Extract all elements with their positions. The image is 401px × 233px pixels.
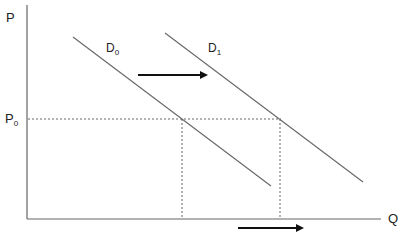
d1-label: D1 [208,42,221,54]
p0-label: P0 [5,112,18,125]
d0-label: D0 [106,42,119,54]
demand-curve-d0 [73,37,271,186]
d0-label-subscript: 0 [115,48,119,57]
p0-label-subscript: 0 [14,119,18,128]
d0-label-main: D [106,41,115,55]
x-axis-label: Q [388,212,398,225]
p0-label-main: P [5,111,14,126]
demand-shift-diagram [0,0,401,233]
y-axis-label: P [6,11,15,24]
demand-curve-d1 [165,33,363,182]
d1-label-subscript: 1 [217,48,221,57]
d1-label-main: D [208,41,217,55]
